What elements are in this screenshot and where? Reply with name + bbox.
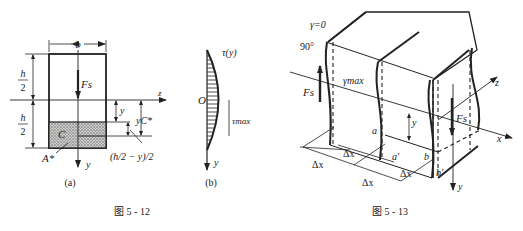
svg-text:y: y: [411, 117, 417, 128]
tau-max-label: τmax: [232, 116, 250, 126]
svg-text:γ=0: γ=0: [310, 19, 326, 30]
svg-text:Δx: Δx: [343, 148, 354, 159]
svg-text:Δx: Δx: [312, 159, 323, 170]
svg-text:x: x: [496, 133, 502, 144]
figure-caption-5-12: 图 5 - 12: [114, 206, 150, 217]
width-label: b: [75, 38, 81, 50]
svg-text:γmax: γmax: [343, 75, 364, 86]
svg-text:Δx: Δx: [400, 168, 411, 179]
z-axis-3d: [438, 77, 497, 120]
svg-text:y: y: [213, 157, 219, 168]
svg-text:h: h: [21, 68, 26, 79]
svg-text:2: 2: [21, 126, 26, 137]
z-axis-label: z: [157, 88, 162, 98]
svg-text:z: z: [494, 77, 499, 88]
svg-text:h: h: [21, 112, 26, 123]
area-label: A*: [41, 152, 55, 164]
svg-text:Fs: Fs: [302, 86, 314, 98]
figure-caption-5-13: 图 5 - 13: [372, 206, 408, 217]
origin-label: O: [198, 94, 206, 106]
svg-text:2: 2: [21, 82, 26, 93]
svg-text:b′: b′: [436, 167, 444, 178]
formula-label: (h/2 − y)/2: [110, 151, 153, 163]
figure-5-12b: O τ(y) τmax y (b): [198, 47, 250, 189]
shear-force-label: Fs: [80, 78, 92, 90]
svg-text:Fs: Fs: [455, 112, 467, 124]
yc-label: yC*: [135, 115, 152, 126]
svg-text:90°: 90°: [300, 41, 314, 52]
subfigure-a-label: (a): [64, 177, 75, 189]
svg-text:y: y: [457, 181, 463, 192]
figure-5-12a: b y Fs z h 2 h 2 y yC* (h/2 − y)/2: [10, 38, 166, 189]
svg-text:b: b: [424, 151, 429, 162]
svg-text:y: y: [119, 105, 125, 116]
svg-text:a: a: [372, 125, 377, 136]
subfigure-b-label: (b): [205, 177, 217, 189]
tau-y-label: τ(y): [222, 47, 237, 59]
y-axis-label: y: [85, 159, 91, 170]
svg-text:Δx: Δx: [362, 177, 373, 188]
svg-text:a′: a′: [392, 151, 400, 162]
diagram-canvas: b y Fs z h 2 h 2 y yC* (h/2 − y)/2: [0, 0, 523, 231]
centroid-label: C: [58, 128, 66, 140]
